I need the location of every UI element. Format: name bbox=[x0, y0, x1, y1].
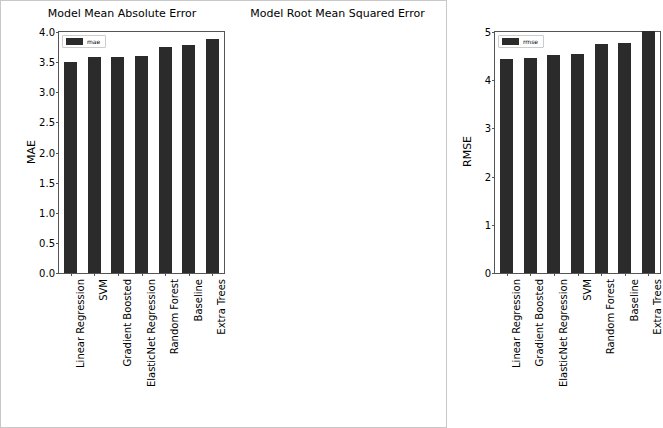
y-tick-label: 4.0 bbox=[39, 27, 55, 38]
legend-label-rmse: rmse bbox=[523, 38, 538, 45]
y-tick-label: 2.0 bbox=[39, 147, 55, 158]
y-tick-mark bbox=[492, 128, 495, 129]
x-tick-mark bbox=[554, 273, 555, 276]
y-tick-label: 2.5 bbox=[39, 117, 55, 128]
y-tick-mark bbox=[56, 32, 59, 33]
y-tick-label: 3 bbox=[485, 123, 491, 134]
y-tick-mark bbox=[492, 177, 495, 178]
bar-series-mae bbox=[59, 32, 224, 273]
bar bbox=[159, 47, 172, 273]
y-axis-label-mae: MAE bbox=[25, 140, 38, 164]
y-tick-mark bbox=[492, 80, 495, 81]
x-tick-label: Random Forest bbox=[169, 279, 180, 354]
bar-series-rmse bbox=[495, 32, 660, 273]
legend-swatch-icon bbox=[66, 38, 83, 45]
y-tick-mark bbox=[56, 62, 59, 63]
x-tick-mark bbox=[601, 273, 602, 276]
bar bbox=[500, 59, 513, 273]
x-tick-mark bbox=[142, 273, 143, 276]
y-tick-mark bbox=[492, 32, 495, 33]
x-tick-label: Linear Regression bbox=[511, 279, 522, 368]
legend-label-mae: mae bbox=[87, 38, 100, 45]
bar bbox=[88, 57, 101, 273]
x-tick-label: SVM bbox=[582, 279, 593, 301]
bar bbox=[571, 54, 584, 273]
y-tick-mark bbox=[56, 273, 59, 274]
y-tick-mark bbox=[56, 153, 59, 154]
y-tick-label: 0.0 bbox=[39, 268, 55, 279]
x-tick-label: ElasticNet Regression bbox=[146, 279, 157, 387]
bar bbox=[64, 62, 77, 273]
x-tick-label: Gradient Boosted bbox=[534, 279, 545, 366]
legend-mae: mae bbox=[62, 35, 106, 48]
x-tick-mark bbox=[94, 273, 95, 276]
y-tick-label: 4 bbox=[485, 75, 491, 86]
y-tick-mark bbox=[492, 273, 495, 274]
x-tick-mark bbox=[507, 273, 508, 276]
y-tick-label: 1.5 bbox=[39, 177, 55, 188]
x-tick-mark bbox=[189, 273, 190, 276]
y-tick-mark bbox=[56, 213, 59, 214]
y-tick-mark bbox=[56, 243, 59, 244]
x-tick-label: Linear Regression bbox=[75, 279, 86, 368]
chart-panel-rmse: Model Root Mean Squared Error RMSE rmse … bbox=[225, 1, 448, 428]
legend-rmse: rmse bbox=[498, 35, 544, 48]
y-axis-label-rmse: RMSE bbox=[461, 136, 474, 167]
bar bbox=[642, 31, 655, 273]
x-tick-label: Random Forest bbox=[605, 279, 616, 354]
x-tick-mark bbox=[530, 273, 531, 276]
y-tick-mark bbox=[56, 92, 59, 93]
x-tick-label: SVM bbox=[98, 279, 109, 301]
chart-title-rmse: Model Root Mean Squared Error bbox=[231, 7, 444, 20]
x-tick-label: Gradient Boosted bbox=[122, 279, 133, 366]
chart-panel-mae: Model Mean Absolute Error MAE mae 0.00.5… bbox=[1, 1, 225, 428]
x-tick-label: Baseline bbox=[193, 279, 204, 321]
x-tick-label: Extra Trees bbox=[652, 279, 663, 335]
x-tick-mark bbox=[578, 273, 579, 276]
y-tick-label: 3.5 bbox=[39, 57, 55, 68]
y-tick-label: 0 bbox=[485, 268, 491, 279]
y-tick-label: 5 bbox=[485, 27, 491, 38]
x-tick-mark bbox=[625, 273, 626, 276]
plot-area-mae: mae 0.00.51.01.52.02.53.03.54.0Linear Re… bbox=[58, 31, 225, 274]
y-tick-mark bbox=[492, 225, 495, 226]
bar bbox=[206, 39, 219, 273]
y-tick-label: 1.0 bbox=[39, 207, 55, 218]
y-tick-label: 3.0 bbox=[39, 87, 55, 98]
bar bbox=[595, 44, 608, 273]
x-tick-mark bbox=[212, 273, 213, 276]
y-tick-mark bbox=[56, 183, 59, 184]
x-tick-label: ElasticNet Regression bbox=[558, 279, 569, 387]
y-tick-label: 1 bbox=[485, 219, 491, 230]
bar bbox=[524, 58, 537, 273]
x-tick-mark bbox=[118, 273, 119, 276]
x-tick-mark bbox=[165, 273, 166, 276]
bar bbox=[111, 57, 124, 273]
bar bbox=[182, 45, 195, 273]
x-tick-mark bbox=[71, 273, 72, 276]
plot-area-rmse: rmse 012345Linear RegressionGradient Boo… bbox=[494, 31, 661, 274]
x-tick-label: Baseline bbox=[629, 279, 640, 321]
y-tick-label: 2 bbox=[485, 171, 491, 182]
y-tick-label: 0.5 bbox=[39, 237, 55, 248]
bar bbox=[547, 55, 560, 273]
bar bbox=[618, 43, 631, 273]
legend-swatch-icon bbox=[502, 38, 519, 45]
y-tick-mark bbox=[56, 122, 59, 123]
bar bbox=[135, 56, 148, 273]
x-tick-mark bbox=[648, 273, 649, 276]
chart-title-mae: Model Mean Absolute Error bbox=[19, 7, 225, 20]
